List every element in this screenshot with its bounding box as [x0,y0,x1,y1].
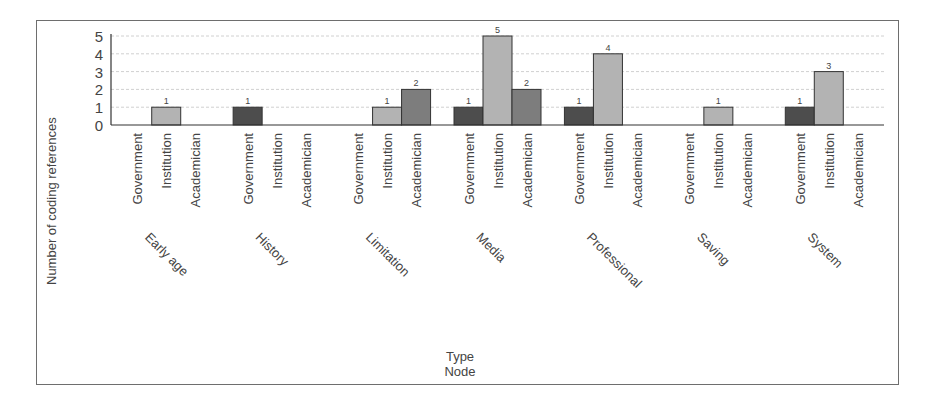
y-tick-label: 4 [95,46,103,63]
bar [704,107,733,125]
x-tick-type-label: Institution [270,133,285,189]
x-tick-type-label: Government [682,133,697,205]
bar [454,107,483,125]
bar-value-label: 1 [466,96,471,106]
bar-value-label: 1 [164,96,169,106]
bar-value-label: 1 [245,96,250,106]
x-tick-type-label: Academician [409,133,424,207]
x-group-label: Early age [142,230,191,279]
bar [512,89,541,125]
x-tick-type-label: Academician [520,133,535,207]
bar-value-label: 1 [576,96,581,106]
y-tick-label: 1 [95,99,103,116]
x-tick-type-label: Institution [491,133,506,189]
y-tick-label: 3 [95,64,103,81]
bar-value-label: 4 [605,43,610,53]
y-tick-label: 0 [95,117,103,134]
x-tick-type-label: Institution [380,133,395,189]
bar-value-label: 1 [385,96,390,106]
bar [564,107,593,125]
y-axis-label: Number of coding references [44,117,59,285]
bar [402,89,431,125]
x-tick-type-label: Academician [851,133,866,207]
y-tick-label: 5 [95,28,103,45]
x-group-label: History [253,230,293,270]
x-tick-type-label: Government [351,133,366,205]
bar [152,107,181,125]
x-tick-type-label: Government [793,133,808,205]
bar-value-label: 3 [826,61,831,71]
bar-chart: 012345Government1InstitutionAcademicianE… [0,0,926,408]
x-tick-type-label: Government [130,133,145,205]
bar-value-label: 1 [716,96,721,106]
bar [373,107,402,125]
x-tick-type-label: Institution [601,133,616,189]
bar [233,107,262,125]
bar-value-label: 5 [495,25,500,35]
bar [593,54,622,125]
x-tick-type-label: Academician [740,133,755,207]
bar-value-label: 1 [797,96,802,106]
y-tick-label: 2 [95,81,103,98]
x-tick-type-label: Institution [822,133,837,189]
x-group-label: Limitation [363,230,413,280]
x-tick-type-label: Government [462,133,477,205]
bar [785,107,814,125]
x-tick-type-label: Government [241,133,256,205]
x-tick-type-label: Institution [159,133,174,189]
bar-value-label: 2 [524,78,529,88]
x-tick-type-label: Academician [299,133,314,207]
x-group-label: Professional [584,230,645,291]
x-tick-type-label: Institution [711,133,726,189]
x-axis-title-line-2: Node [420,364,500,379]
x-tick-type-label: Government [572,133,587,205]
x-tick-type-label: Academician [188,133,203,207]
x-axis-title-line-1: Type [420,349,500,364]
bar [483,36,512,125]
x-group-label: Media [473,230,509,266]
x-group-label: Saving [694,230,733,269]
bar [814,72,843,125]
x-tick-type-label: Academician [630,133,645,207]
x-axis-title: Type Node [420,349,500,379]
x-group-label: System [805,230,846,271]
bar-value-label: 2 [414,78,419,88]
